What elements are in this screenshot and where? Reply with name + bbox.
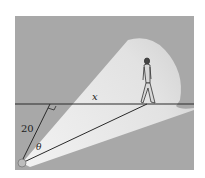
searchlight-diagram: x 20 θ [0,0,205,178]
label-x: x [92,91,98,102]
label-distance-20: 20 [21,123,34,134]
label-theta: θ [36,142,42,152]
searchlight-icon [18,159,26,167]
